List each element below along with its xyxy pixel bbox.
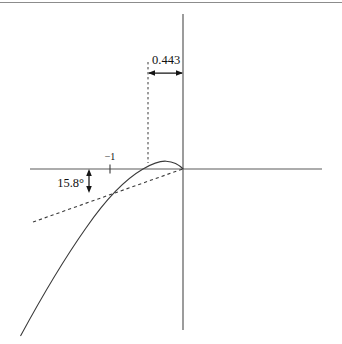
plot-svg: −1 0.443 15.8° xyxy=(0,0,342,344)
angle-label: 15.8° xyxy=(57,176,84,190)
distance-double-arrow xyxy=(148,70,183,76)
angle-double-arrow xyxy=(86,169,92,193)
x-tick-label-minus-one: −1 xyxy=(105,151,116,162)
figure-canvas: −1 0.443 15.8° xyxy=(0,0,342,344)
tangent-line xyxy=(33,169,184,223)
distance-label: 0.443 xyxy=(152,53,180,67)
curve xyxy=(21,161,184,336)
